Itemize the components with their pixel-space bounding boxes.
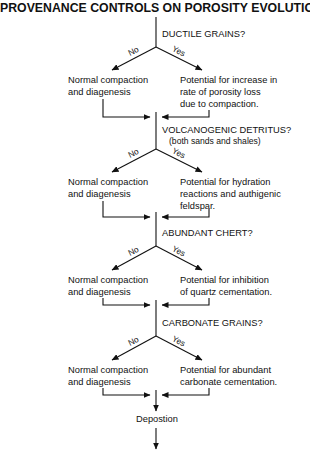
decision-ductile-grains: DUCTILE GRAINS? [162,29,245,40]
decision-subtitle: (both sands and shales) [169,136,261,146]
yes-outcome-text: Potential for inhibition of quartz cemen… [180,274,272,298]
yes-outcome-text: Potential for hydration reactions and au… [180,176,281,212]
no-outcome-text: Normal compaction and diagenesis [68,274,148,298]
yes-outcome-text: Potential for abundant carbonate cementa… [180,364,277,388]
decision-volcanogenic-detritus: VOLCANOGENIC DETRITUS? [162,125,291,136]
decision-abundant-chert: ABUNDANT CHERT? [162,228,253,239]
yes-outcome-text: Potential for increase in rate of porosi… [180,74,277,110]
no-outcome-text: Normal compaction and diagenesis [68,176,148,200]
final-step-deposition: Depostion [136,414,178,424]
no-outcome-text: Normal compaction and diagenesis [68,364,148,388]
no-outcome-text: Normal compaction and diagenesis [68,74,148,98]
decision-carbonate-grains: CARBONATE GRAINS? [162,318,263,329]
